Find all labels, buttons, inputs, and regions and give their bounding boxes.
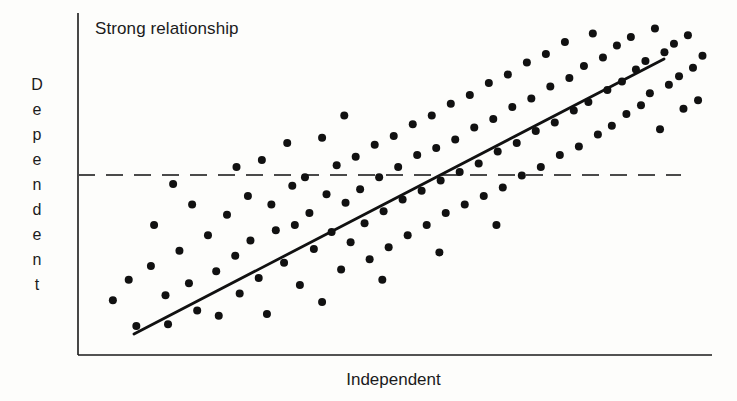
scatter-point xyxy=(632,65,640,73)
scatter-point xyxy=(258,156,266,164)
scatter-point xyxy=(164,320,172,328)
scatter-point xyxy=(109,296,117,304)
scatter-point xyxy=(556,151,564,159)
scatter-point xyxy=(561,38,569,46)
scatter-point xyxy=(347,238,355,246)
scatter-point xyxy=(150,221,158,229)
scatter-point xyxy=(169,180,177,188)
scatter-point xyxy=(212,267,220,275)
scatter-point xyxy=(231,252,239,260)
scatter-point xyxy=(147,262,155,270)
scatter-point xyxy=(565,74,573,82)
scatter-point xyxy=(409,120,417,128)
scatter-point xyxy=(689,64,697,72)
scatter-point xyxy=(404,231,412,239)
scatter-point xyxy=(280,259,288,267)
scatter-point xyxy=(532,127,540,135)
scatter-point xyxy=(437,177,445,185)
scatter-point xyxy=(698,52,706,60)
scatter-point xyxy=(291,221,299,229)
scatter-point xyxy=(456,168,464,176)
x-axis-label-text: Independent xyxy=(346,370,441,389)
scatter-point xyxy=(580,62,588,70)
scatter-point xyxy=(613,41,621,49)
scatter-point xyxy=(694,96,702,104)
scatter-point xyxy=(161,291,169,299)
scatter-point xyxy=(356,185,364,193)
y-axis-label-letter-2: p xyxy=(22,122,52,147)
scatter-point xyxy=(215,312,223,320)
scatter-point xyxy=(132,322,140,330)
scatter-point xyxy=(684,31,692,39)
scatter-point xyxy=(283,139,291,147)
scatter-point xyxy=(461,201,469,209)
scatter-point xyxy=(608,122,616,130)
scatter-point xyxy=(646,89,654,97)
scatter-point xyxy=(371,141,379,149)
scatter-point xyxy=(390,132,398,140)
scatter-point xyxy=(255,274,263,282)
scatter-point xyxy=(328,228,336,236)
scatter-point xyxy=(618,77,626,85)
scatter-point xyxy=(318,134,326,142)
scatter-point xyxy=(301,173,309,181)
scatter-point xyxy=(603,86,611,94)
scatter-point xyxy=(492,221,500,229)
scatter-point xyxy=(594,130,602,138)
scatter-points-group xyxy=(109,24,707,330)
scatter-point xyxy=(637,101,645,109)
scatter-point xyxy=(485,79,493,87)
x-axis-label: Independent xyxy=(0,370,737,390)
y-axis-label-letter-4: n xyxy=(22,172,52,197)
scatter-point xyxy=(236,289,244,297)
scatter-point xyxy=(310,245,318,253)
scatter-point xyxy=(340,112,348,120)
scatter-point xyxy=(323,190,331,198)
plot-canvas xyxy=(0,0,737,401)
scatter-point xyxy=(489,115,497,123)
scatter-point xyxy=(622,110,630,118)
scatter-point xyxy=(513,139,521,147)
scatter-point xyxy=(537,163,545,171)
scatter-point xyxy=(584,98,592,106)
scatter-point xyxy=(641,57,649,65)
scatter-point xyxy=(627,33,635,41)
scatter-point xyxy=(267,201,275,209)
scatter-point xyxy=(193,307,201,315)
scatter-point xyxy=(589,30,597,38)
scatter-point xyxy=(366,255,374,263)
scatter-point xyxy=(305,209,313,217)
y-axis-label-letter-7: n xyxy=(22,247,52,272)
scatter-point xyxy=(451,136,459,144)
y-axis-label-letter-6: e xyxy=(22,222,52,247)
scatter-point xyxy=(518,171,526,179)
y-axis-label-letter-8: t xyxy=(22,272,52,297)
scatter-point xyxy=(466,91,474,99)
y-axis-label-letter-5: d xyxy=(22,197,52,222)
regression-line xyxy=(134,59,664,334)
scatter-point xyxy=(575,142,583,150)
scatter-point xyxy=(272,226,280,234)
scatter-point xyxy=(380,207,388,215)
scatter-point xyxy=(352,153,360,161)
scatter-point xyxy=(418,187,426,195)
scatter-point xyxy=(475,159,483,167)
scatter-point xyxy=(175,247,183,255)
scatter-point xyxy=(223,211,231,219)
scatter-point xyxy=(551,118,559,126)
scatter-point xyxy=(361,219,369,227)
scatter-point xyxy=(508,103,516,111)
scatter-point xyxy=(442,209,450,217)
scatter-point xyxy=(337,266,345,274)
chart-title: Strong relationship xyxy=(95,19,239,39)
scatter-point xyxy=(660,48,668,56)
scatter-point xyxy=(233,163,241,171)
scatter-point xyxy=(470,124,478,132)
y-axis-label: Dependent xyxy=(22,72,52,297)
scatter-point xyxy=(188,201,196,209)
scatter-point xyxy=(413,151,421,159)
scatter-point xyxy=(670,40,678,48)
scatter-point xyxy=(546,83,554,91)
scatter-point xyxy=(599,53,607,61)
scatter-point xyxy=(447,100,455,108)
